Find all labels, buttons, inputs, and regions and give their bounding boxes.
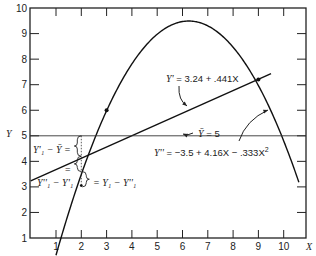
svg-text:Y'' = −3.5 + 4.16X − .333X2: Y'' = −3.5 + 4.16X − .333X2 <box>154 146 269 158</box>
axis-ticks: 1234567891012345678910 <box>16 3 306 252</box>
svg-text:2: 2 <box>21 207 27 218</box>
annotation-equals: = <box>65 163 71 174</box>
svg-text:3: 3 <box>104 241 110 252</box>
svg-text:1: 1 <box>21 233 27 244</box>
svg-text:6: 6 <box>180 241 186 252</box>
svg-text:8: 8 <box>21 54 27 65</box>
annotation-residual: = Y₁ − Y''₁ <box>93 177 136 188</box>
annotation-linear: Y' = 3.24 + .441X <box>166 73 239 84</box>
svg-text:9: 9 <box>256 241 262 252</box>
svg-text:5: 5 <box>21 130 27 141</box>
annotation-quadratic: Y'' = −3.5 + 4.16X − .333X2 <box>154 146 269 158</box>
y-axis-label: Y <box>6 128 13 139</box>
svg-text:Ȳ = 5: Ȳ = 5 <box>198 128 220 139</box>
annotation-mean: Ȳ = 5 <box>198 128 220 139</box>
svg-text:6: 6 <box>21 105 27 116</box>
svg-text:10: 10 <box>16 3 28 14</box>
svg-text:Y' = 3.24 + .441X: Y' = 3.24 + .441X <box>166 73 239 84</box>
x-axis-label: X <box>305 241 313 252</box>
svg-text:10: 10 <box>278 241 290 252</box>
svg-text:5: 5 <box>154 241 160 252</box>
curves <box>30 21 306 255</box>
svg-text:2: 2 <box>79 241 85 252</box>
svg-text:7: 7 <box>21 79 27 90</box>
svg-text:8: 8 <box>230 241 236 252</box>
svg-text:4: 4 <box>129 241 135 252</box>
svg-text:4: 4 <box>21 156 27 167</box>
annotation-deviation-mean: Y'₁ − Ȳ = <box>33 144 71 155</box>
regression-chart: 1234567891012345678910 Y X Y' = 3.24 + .… <box>0 0 316 256</box>
svg-text:7: 7 <box>205 241 211 252</box>
svg-text:3: 3 <box>21 181 27 192</box>
svg-text:9: 9 <box>21 28 27 39</box>
annotation-deviation-models: Y''₁ − Y'₁ <box>37 177 73 188</box>
